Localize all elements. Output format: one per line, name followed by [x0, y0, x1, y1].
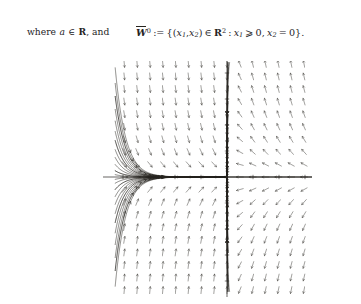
parameter-a: a — [59, 26, 64, 37]
cond1-x1-sub: 1 — [239, 31, 243, 39]
lead-in-text: wherea∈R, and — [27, 26, 109, 38]
cond2-relation: = — [279, 27, 287, 38]
lead-in-suffix: , and — [86, 26, 109, 37]
phase-portrait-figure — [103, 61, 312, 297]
phase-portrait-canvas — [103, 61, 312, 297]
display-formula: W0:={(x1,x2)∈R2:x1⩾0,x2=0}. — [136, 27, 304, 40]
formula-membership-symbol: ∈ — [205, 27, 212, 38]
lead-in-word: where — [27, 26, 56, 37]
w-superscript: 0 — [147, 27, 151, 35]
w-bar-symbol: W — [136, 27, 147, 39]
condition-comma: , — [262, 27, 265, 38]
definition-symbol: := — [153, 27, 164, 38]
formula-period: . — [301, 27, 304, 38]
tuple-close-paren: ) — [199, 27, 203, 38]
cond2-x2-sub: 2 — [272, 31, 276, 39]
cond1-relation: ⩾ — [245, 27, 253, 38]
such-that-colon: : — [228, 27, 231, 38]
plane-symbol: R — [214, 27, 222, 38]
plane-exponent: 2 — [222, 27, 226, 35]
membership-symbol: ∈ — [68, 26, 75, 37]
